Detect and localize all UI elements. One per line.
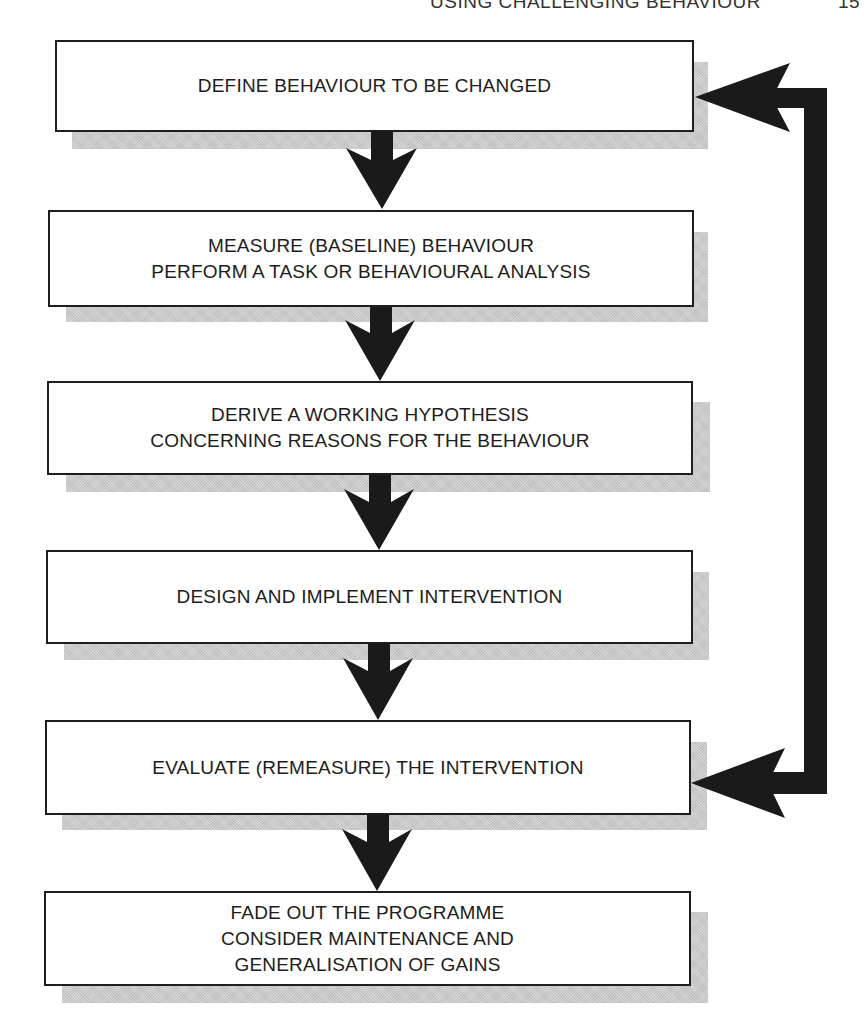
step-text: CONCERNING REASONS FOR THE BEHAVIOUR <box>150 428 589 454</box>
connector-layer <box>0 0 864 1026</box>
flow-step-working-hypothesis: DERIVE A WORKING HYPOTHESIS CONCERNING R… <box>47 381 693 475</box>
step-text: FADE OUT THE PROGRAMME <box>231 900 505 926</box>
feedback-loop-icon <box>691 63 827 818</box>
step-text: MEASURE (BASELINE) BEHAVIOUR <box>208 233 534 259</box>
flow-step-evaluate-intervention: EVALUATE (REMEASURE) THE INTERVENTION <box>45 720 691 815</box>
step-text: DERIVE A WORKING HYPOTHESIS <box>211 402 529 428</box>
down-arrow-icon <box>344 474 414 550</box>
down-arrow-icon <box>345 305 415 381</box>
down-arrow-icon <box>343 643 413 720</box>
step-text: PERFORM A TASK OR BEHAVIOURAL ANALYSIS <box>151 259 590 285</box>
step-text: GENERALISATION OF GAINS <box>234 952 500 978</box>
down-arrow-icon <box>342 814 412 891</box>
down-arrow-icon <box>346 131 417 209</box>
flow-step-measure-baseline: MEASURE (BASELINE) BEHAVIOUR PERFORM A T… <box>48 210 694 307</box>
flow-step-design-intervention: DESIGN AND IMPLEMENT INTERVENTION <box>46 550 693 644</box>
step-text: DESIGN AND IMPLEMENT INTERVENTION <box>177 584 563 610</box>
flow-step-fade-out-programme: FADE OUT THE PROGRAMME CONSIDER MAINTENA… <box>44 891 691 986</box>
flow-step-define-behaviour: DEFINE BEHAVIOUR TO BE CHANGED <box>55 40 694 132</box>
step-text: EVALUATE (REMEASURE) THE INTERVENTION <box>152 755 583 781</box>
step-text: DEFINE BEHAVIOUR TO BE CHANGED <box>198 73 551 99</box>
step-text: CONSIDER MAINTENANCE AND <box>221 926 514 952</box>
